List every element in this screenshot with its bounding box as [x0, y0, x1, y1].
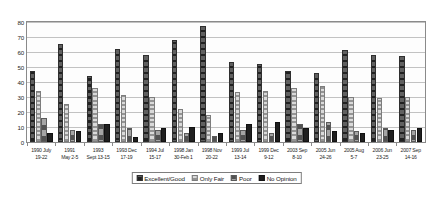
x-axis-tick — [27, 143, 55, 146]
x-label-line-1: 1990 July — [31, 147, 51, 153]
bar — [87, 76, 92, 143]
x-axis-labels: 1990 July19-221991May 2-51993Sept 13-151… — [27, 147, 425, 169]
x-label-line-2: 30-Feb 1 — [169, 154, 197, 161]
bar — [104, 124, 109, 143]
legend-swatch-icon — [259, 175, 265, 181]
tick-mark — [283, 143, 284, 146]
bar-group — [226, 22, 254, 142]
x-label-line-2: 13-14 — [226, 154, 254, 161]
x-label-line-1: 2005 Jun — [316, 147, 335, 153]
bar — [411, 130, 416, 143]
x-label-line-2: 9-12 — [254, 154, 282, 161]
bar — [405, 97, 410, 143]
y-axis-tick-label: 70 — [2, 34, 24, 41]
x-axis-tick-label: 1998 Jan30-Feb 1 — [169, 147, 197, 169]
x-label-line-2: 20-22 — [198, 154, 226, 161]
x-axis-tick — [396, 143, 424, 146]
tick-mark — [169, 143, 170, 146]
bar — [377, 98, 382, 142]
tick-mark — [226, 143, 227, 146]
legend-label: Only Fair — [200, 175, 224, 182]
bar — [275, 122, 280, 142]
bar-group — [55, 22, 83, 142]
x-label-line-1: 1998 Jan — [174, 147, 193, 153]
legend-item: Excellent/Good — [136, 175, 185, 182]
bar — [383, 128, 388, 142]
bar-group — [283, 22, 311, 142]
bar — [303, 128, 308, 142]
x-axis-tick — [311, 143, 339, 146]
legend-item: Only Fair — [192, 175, 224, 182]
y-axis-tick-label: 80 — [2, 19, 24, 26]
x-axis-tick-label: 1990 July19-22 — [27, 147, 55, 169]
x-axis-tick-label: 2005 Aug5-7 — [340, 147, 368, 169]
bar — [115, 49, 120, 143]
x-label-line-1: 1999 Dec — [258, 147, 278, 153]
bar — [36, 91, 41, 143]
bar — [285, 71, 290, 142]
bar-group — [169, 22, 197, 142]
x-label-line-2: 8-10 — [283, 154, 311, 161]
bar — [143, 55, 148, 143]
tick-mark — [311, 143, 312, 146]
bar — [218, 133, 223, 143]
bar-group — [340, 22, 368, 142]
x-label-line-2: 15-17 — [141, 154, 169, 161]
x-axis-tick — [368, 143, 396, 146]
tick-mark — [396, 143, 397, 146]
y-axis-tick-label: 60 — [2, 49, 24, 56]
bar-group — [368, 22, 396, 142]
x-axis-tick — [226, 143, 254, 146]
bar — [326, 122, 331, 142]
bar — [47, 133, 52, 143]
y-axis-tick-label: 30 — [2, 94, 24, 101]
chart-legend: Excellent/GoodOnly FairPoorNo Opinion — [131, 172, 301, 184]
tick-mark — [254, 143, 255, 146]
bar — [206, 115, 211, 143]
bar — [348, 97, 353, 143]
bar-chart: 01020304050607080 1990 July19-221991May … — [0, 0, 433, 197]
bar — [291, 88, 296, 143]
tick-mark — [198, 143, 199, 146]
x-label-line-1: 1998 Nov — [202, 147, 222, 153]
bar — [257, 64, 262, 143]
bar — [314, 73, 319, 143]
x-axis-tick-label: 2007 Sep14-16 — [396, 147, 424, 169]
bar — [360, 133, 365, 143]
bar — [149, 97, 154, 143]
bar — [246, 124, 251, 143]
bar — [30, 71, 35, 142]
x-axis-tick-label: 2006 Jun23-25 — [368, 147, 396, 169]
bar — [200, 26, 205, 142]
tick-mark — [112, 143, 113, 146]
bar — [388, 130, 393, 143]
bar-group — [84, 22, 112, 142]
bar — [178, 109, 183, 143]
y-axis-tick-label: 10 — [2, 124, 24, 131]
tick-mark — [141, 143, 142, 146]
legend-item: Poor — [231, 175, 252, 182]
x-axis-tick-label: 2003 Sep8-10 — [283, 147, 311, 169]
x-axis-tick-label: 1998 Nov20-22 — [198, 147, 226, 169]
tick-mark — [27, 143, 28, 146]
x-label-line-2: May 2-5 — [55, 154, 83, 161]
bar — [417, 128, 422, 142]
y-axis-tick-label: 50 — [2, 64, 24, 71]
bar — [240, 130, 245, 143]
x-axis-tick — [283, 143, 311, 146]
bar — [342, 50, 347, 142]
x-axis-tick-label: 1993Sept 13-15 — [84, 147, 112, 169]
x-axis-tick-label: 1993 Dec17-19 — [112, 147, 140, 169]
bar — [235, 92, 240, 142]
x-label-line-2: 19-22 — [27, 154, 55, 161]
bar — [70, 130, 75, 143]
x-label-line-1: 2006 Jun — [373, 147, 392, 153]
x-axis-tick — [254, 143, 282, 146]
x-label-line-1: 1993 — [93, 147, 104, 153]
x-axis-tick — [340, 143, 368, 146]
tick-mark — [55, 143, 56, 146]
bar-group — [198, 22, 226, 142]
bar — [127, 128, 132, 142]
y-axis-tick-label: 20 — [2, 109, 24, 116]
legend-label: Poor — [239, 175, 252, 182]
